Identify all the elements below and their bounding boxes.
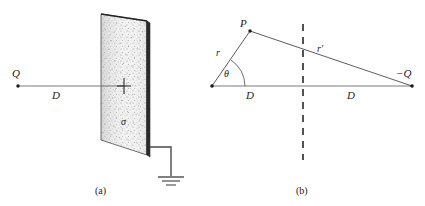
figure-container: Q D σ P r θ r′ −Q D D (a) (b) [0,0,425,206]
earth-ground-icon [158,177,184,185]
label-surface-charge-sigma: σ [121,117,126,127]
point-dot-P [248,29,251,32]
label-distance-r: r [216,48,220,58]
caption-panel-a: (a) [95,186,106,196]
angle-arc-theta [231,60,245,86]
label-distance-D-a: D [52,90,60,101]
segment-r-prime [250,31,412,86]
label-charge-Q-a: Q [12,68,20,79]
ground-wire [150,147,171,176]
charge-dot-Q-a [16,84,19,87]
label-image-charge-negative-Q: −Q [396,68,411,79]
charge-dot-negative-Q [410,84,414,88]
label-distance-r-prime: r′ [317,44,323,54]
segment-r [212,31,250,86]
caption-panel-b: (b) [296,186,308,196]
label-angle-theta: θ [224,69,229,79]
figure-vector-graphics [0,0,425,206]
label-distance-D-b-right: D [347,90,355,101]
label-point-P: P [240,18,247,29]
charge-dot-Q-b [210,84,214,88]
label-distance-D-b-left: D [246,90,254,101]
